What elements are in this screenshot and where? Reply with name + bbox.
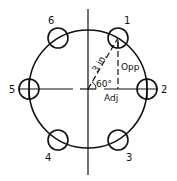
hole-label-5: 5 [9,84,15,95]
hole-label-4: 4 [45,152,51,163]
hole-label-3: 3 [126,152,132,163]
hole-label-6: 6 [48,15,54,26]
hole-label-1: 1 [124,15,130,26]
hole-label-2: 2 [161,84,167,95]
angle-label: 60° [96,79,112,89]
radius-label: 3 in. [90,52,108,74]
bolt-circle-diagram: 1 2 3 4 5 6 3 in. 60° Opp Adj [0,0,177,181]
adjacent-label: Adj [104,93,118,103]
opposite-label: Opp [121,62,140,72]
